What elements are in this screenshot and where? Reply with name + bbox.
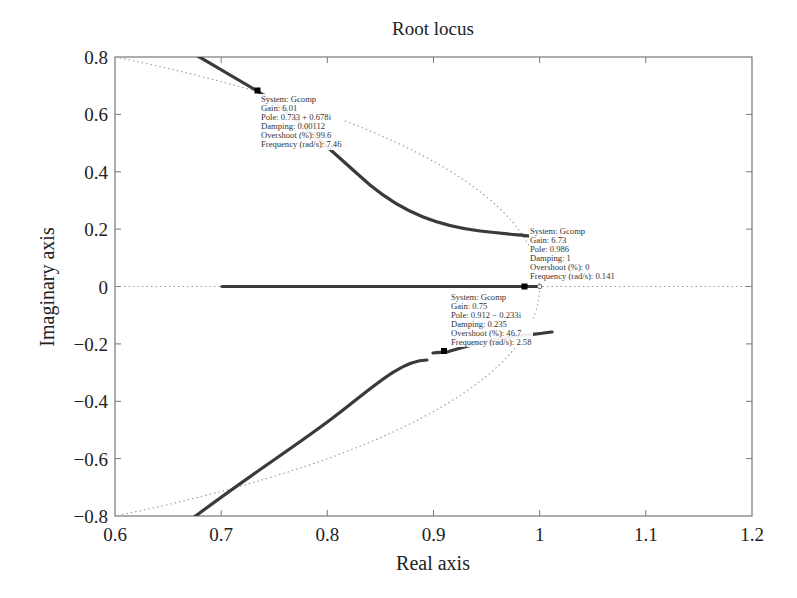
x-axis-label: Real axis <box>396 552 470 574</box>
root-locus-chart: Root locus 0.6 0.7 0.8 0.9 1 1.1 1.2 0.8… <box>0 0 797 598</box>
y-tick-label: 0.8 <box>84 47 108 68</box>
y-axis-label: Imaginary axis <box>36 227 59 347</box>
y-tick-label: 0 <box>99 277 109 298</box>
y-tick-label: −0.6 <box>74 449 108 470</box>
datatip-upper: System: Gcomp Gain: 6.01 Pole: 0.733 + 0… <box>259 94 343 150</box>
svg-text:Frequency (rad/s): 0.141: Frequency (rad/s): 0.141 <box>530 271 615 281</box>
x-tick-labels: 0.6 0.7 0.8 0.9 1 1.1 1.2 <box>103 524 764 545</box>
x-tick-label: 1 <box>535 524 545 545</box>
svg-text:Frequency (rad/s): 2.58: Frequency (rad/s): 2.58 <box>451 337 531 347</box>
datatip-marker-upper[interactable] <box>255 88 261 94</box>
chart-title: Root locus <box>392 18 474 39</box>
x-tick-label: 0.7 <box>209 524 233 545</box>
x-tick-label: 0.9 <box>422 524 446 545</box>
x-tick-label: 1.2 <box>740 524 764 545</box>
y-tick-label: 0.6 <box>84 104 108 125</box>
y-tick-label: −0.4 <box>74 391 109 412</box>
y-tick-label: 0.4 <box>84 162 108 183</box>
datatip-marker-real[interactable] <box>522 284 528 290</box>
x-tick-label: 0.6 <box>103 524 127 545</box>
x-tick-label: 0.8 <box>315 524 339 545</box>
y-tick-labels: 0.8 0.6 0.4 0.2 0 −0.2 −0.4 −0.6 −0.8 <box>74 47 109 527</box>
y-tick-label: 0.2 <box>84 219 108 240</box>
x-tick-label: 1.1 <box>634 524 658 545</box>
y-tick-label: −0.8 <box>74 506 108 527</box>
datatip-real: System: Gcomp Gain: 6.73 Pole: 0.986 Dam… <box>529 226 615 282</box>
y-tick-label: −0.2 <box>74 334 108 355</box>
datatip-lower: System: Gcomp Gain: 0.75 Pole: 0.912 − 0… <box>449 291 533 347</box>
datatip-marker-lower[interactable] <box>441 348 447 354</box>
svg-text:Frequency (rad/s): 7.46: Frequency (rad/s): 7.46 <box>261 139 342 149</box>
locus-upper-branch <box>196 55 529 236</box>
locus-lower-branch <box>193 332 552 518</box>
zero-marker-icon <box>538 284 542 288</box>
